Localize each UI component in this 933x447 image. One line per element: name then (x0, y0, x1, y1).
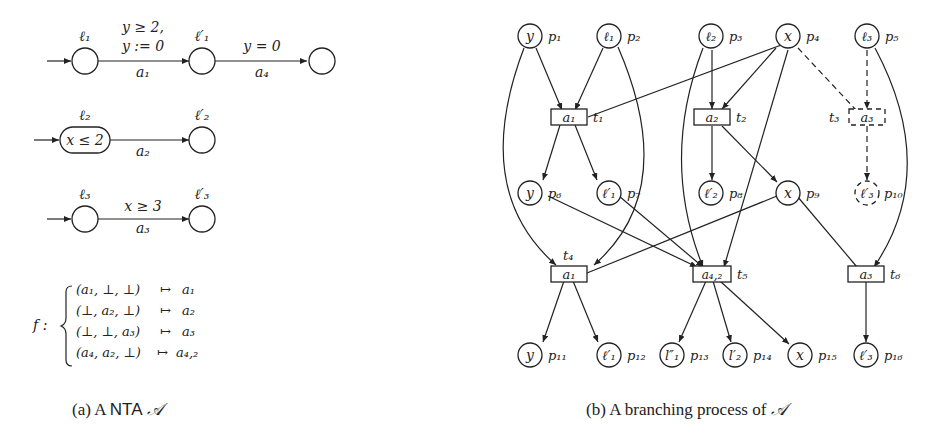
place-p8: ℓ′₂ p₈ (699, 181, 743, 205)
edge-guard: y = 0 (242, 38, 281, 54)
place-p5: ℓ₃ p₅ (855, 24, 899, 48)
sync-function: f : (a₁, ⊥, ⊥) ↦ a₁ (⊥, a₂, ⊥) ↦ a₂ (⊥, … (32, 282, 198, 366)
place-p11: y p₁₁ (518, 343, 567, 367)
location-label: ℓ′₂ (195, 107, 210, 123)
transition-t4: a₁ t₄ (551, 248, 587, 282)
arc-t4-p12 (573, 281, 598, 342)
edge-action: a₃ (136, 220, 150, 236)
location-label: ℓ₂ (79, 107, 91, 123)
arc-p2-t4 (594, 47, 644, 265)
svg-text:a₁: a₁ (563, 110, 576, 125)
arc-p9-t4 (587, 196, 777, 273)
arc-t1-p6 (543, 125, 560, 180)
svg-text:ℓ′₃: ℓ′₃ (859, 348, 873, 363)
arc-t5-p15 (720, 281, 789, 344)
svg-text:p₁: p₁ (548, 29, 562, 44)
location-l1-prime (189, 48, 215, 74)
svg-text:t₂: t₂ (736, 110, 746, 125)
location-invariant: x ≤ 2 (66, 132, 104, 148)
svg-text:x: x (784, 28, 792, 44)
location-l2-prime (189, 127, 215, 153)
arc-t1-p7 (575, 125, 597, 180)
arc-p1-t4 (503, 48, 556, 265)
maps-to: ↦ (157, 345, 168, 360)
arc-t4-p11 (543, 281, 564, 342)
edge-action: a₂ (136, 143, 150, 159)
sync-result: a₃ (182, 324, 195, 339)
svg-text:x: x (796, 347, 804, 363)
svg-text:t₅: t₅ (737, 267, 748, 282)
arc-p1-t1 (536, 48, 562, 110)
place-p7: ℓ′₁ p₇ (597, 181, 641, 205)
place-p6: y p₆ (518, 181, 562, 205)
svg-text:ℓ′₁: ℓ′₁ (602, 186, 616, 201)
maps-to: ↦ (160, 282, 171, 297)
sync-vector: (⊥, a₂, ⊥) (76, 303, 140, 318)
place-p3: ℓ₂ p₃ (699, 24, 743, 48)
arc-t5-p13 (679, 281, 706, 342)
svg-text:p₃: p₃ (729, 29, 743, 44)
svg-text:x: x (784, 185, 792, 201)
place-p9: x p₉ (776, 181, 820, 205)
arc-p4-t3 (798, 48, 856, 110)
svg-text:p₇: p₇ (627, 186, 641, 201)
transition-t6: a₃ t₆ (848, 266, 900, 282)
location-end (309, 48, 335, 74)
svg-text:ℓ₃: ℓ₃ (862, 29, 873, 44)
svg-text:ℓ′₃: ℓ′₃ (860, 186, 874, 201)
svg-text:p₉: p₉ (806, 186, 820, 201)
svg-text:p₁₁: p₁₁ (548, 348, 567, 363)
svg-text:ℓ′₂: ℓ′₂ (704, 186, 718, 201)
place-p15: x p₁₅ (788, 343, 838, 367)
location-label: ℓ′₁ (195, 28, 210, 44)
sync-vector: (a₁, ⊥, ⊥) (76, 282, 140, 297)
transition-t1: a₁ t₁ (551, 109, 603, 125)
svg-text:a₄,₂: a₄,₂ (702, 268, 723, 282)
svg-text:p₁₄: p₁₄ (753, 348, 772, 363)
svg-text:p₁₅: p₁₅ (818, 348, 838, 363)
sync-result: a₂ (182, 303, 195, 318)
automaton-1: ℓ₁ y ≥ 2, y := 0 a₁ ℓ′₁ y = 0 a₄ (47, 19, 335, 80)
automaton-2: x ≤ 2 ℓ₂ a₂ ℓ′₂ (34, 107, 215, 159)
sync-result: a₁ (182, 282, 195, 297)
function-name: f : (32, 317, 47, 333)
edge-guard: x ≥ 3 (124, 198, 162, 214)
svg-text:y: y (525, 185, 535, 201)
place-p14: l′₂ p₁₄ (723, 343, 772, 367)
figure-canvas: ℓ₁ y ≥ 2, y := 0 a₁ ℓ′₁ y = 0 a₄ x ≤ 2 ℓ… (0, 0, 933, 447)
automaton-3: ℓ₃ x ≥ 3 a₃ ℓ′₃ (47, 186, 215, 236)
svg-text:p₆: p₆ (548, 186, 562, 201)
petri-places: y p₁ ℓ₁ p₂ ℓ₂ p₃ x p₄ ℓ₃ p₅ y p₆ (518, 24, 904, 367)
svg-text:t₆: t₆ (890, 267, 900, 282)
place-p12: ℓ′₁ p₁₂ (597, 343, 646, 367)
svg-text:t₁: t₁ (593, 110, 603, 125)
svg-text:ℓ₁: ℓ₁ (604, 29, 615, 44)
arc-t2-p9 (722, 126, 777, 182)
svg-text:a₃: a₃ (861, 110, 874, 125)
svg-text:p₁₀: p₁₀ (884, 186, 904, 201)
location-label: ℓ₁ (79, 28, 90, 44)
sync-result: a₄,₂ (176, 345, 198, 360)
svg-text:p₅: p₅ (885, 29, 899, 44)
svg-text:t₃: t₃ (829, 110, 839, 125)
svg-text:l′₂: l′₂ (729, 348, 741, 363)
edge-guard: y ≥ 2, (121, 19, 164, 35)
svg-text:p₄: p₄ (806, 29, 820, 44)
arc-p2-t1 (575, 48, 603, 110)
sync-vector: (a₄, a₂, ⊥) (76, 345, 141, 360)
svg-text:p₁₆: p₁₆ (884, 348, 903, 363)
place-p13: l″₁ p₁₃ (660, 343, 709, 367)
caption-a: (a) A NTA 𝒜 (72, 400, 168, 419)
svg-text:ℓ′₁: ℓ′₁ (602, 348, 616, 363)
arc-p4-t5 (724, 50, 788, 267)
place-p2: ℓ₁ p₂ (597, 24, 641, 48)
svg-text:p₂: p₂ (627, 29, 641, 44)
location-l3-prime (189, 206, 215, 232)
arc-p5-t6 (874, 48, 907, 267)
edge-reset: y := 0 (121, 38, 164, 54)
svg-text:a₃: a₃ (860, 267, 873, 282)
caption-b: (b) A branching process of 𝒜 (586, 400, 792, 419)
edge-action: a₄ (255, 64, 269, 80)
location-l3 (72, 206, 98, 232)
brace (61, 286, 72, 366)
